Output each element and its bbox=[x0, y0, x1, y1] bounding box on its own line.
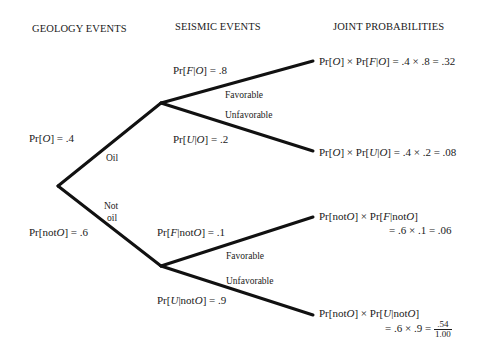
branch-label-oil-favorable: Favorable bbox=[225, 89, 263, 101]
branch-label-not-oil-line1: Not bbox=[104, 200, 118, 212]
prob-f-given-o: Pr[F|O] = .8 bbox=[173, 64, 227, 76]
branch-notoil-unfavorable bbox=[161, 266, 313, 315]
joint-notoil-unfavorable-line1: Pr[notO] × Pr[U|notO] bbox=[319, 307, 419, 319]
prob-not-oil: Pr[notO] = .6 bbox=[29, 226, 88, 238]
branch-label-notoil-unfavorable: Unfavorable bbox=[226, 275, 273, 287]
branch-oil bbox=[58, 103, 161, 186]
prob-u-given-o: Pr[U|O] = .2 bbox=[173, 133, 228, 145]
header-geology-events: GEOLOGY EVENTS bbox=[32, 23, 127, 35]
branch-label-oil: Oil bbox=[106, 152, 118, 164]
branch-label-not-oil-line2: oil bbox=[107, 212, 117, 224]
joint-oil-favorable: Pr[O] × Pr[F|O] = .4 × .8 = .32 bbox=[319, 55, 455, 67]
branch-label-notoil-favorable: Favorable bbox=[226, 250, 264, 262]
joint-notoil-favorable-line2: = .6 × .1 = .06 bbox=[389, 224, 452, 236]
joint-total: 1.00 bbox=[434, 330, 452, 339]
prob-oil: Pr[O] = .4 bbox=[29, 132, 74, 144]
tree-branches bbox=[0, 0, 492, 359]
header-seismic-events: SEISMIC EVENTS bbox=[175, 21, 261, 33]
probability-tree-diagram: GEOLOGY EVENTS SEISMIC EVENTS JOINT PROB… bbox=[0, 0, 492, 359]
joint-notoil-unfavorable-expr: = .6 × .9 = bbox=[385, 322, 431, 334]
joint-oil-unfavorable: Pr[O] × Pr[U|O] = .4 × .2 = .08 bbox=[319, 146, 456, 158]
joint-sum-fraction: .54 1.00 bbox=[434, 320, 452, 339]
branch-label-oil-unfavorable: Unfavorable bbox=[225, 109, 272, 121]
prob-f-given-not-o: Pr[F|notO] = .1 bbox=[157, 226, 225, 238]
prob-u-given-not-o: Pr[U|notO] = .9 bbox=[157, 294, 226, 306]
joint-notoil-unfavorable-line2: = .6 × .9 = .54 1.00 bbox=[385, 320, 452, 339]
joint-notoil-favorable-line1: Pr[notO] × Pr[F|notO] bbox=[319, 210, 418, 222]
header-joint-probabilities: JOINT PROBABILITIES bbox=[333, 21, 444, 33]
